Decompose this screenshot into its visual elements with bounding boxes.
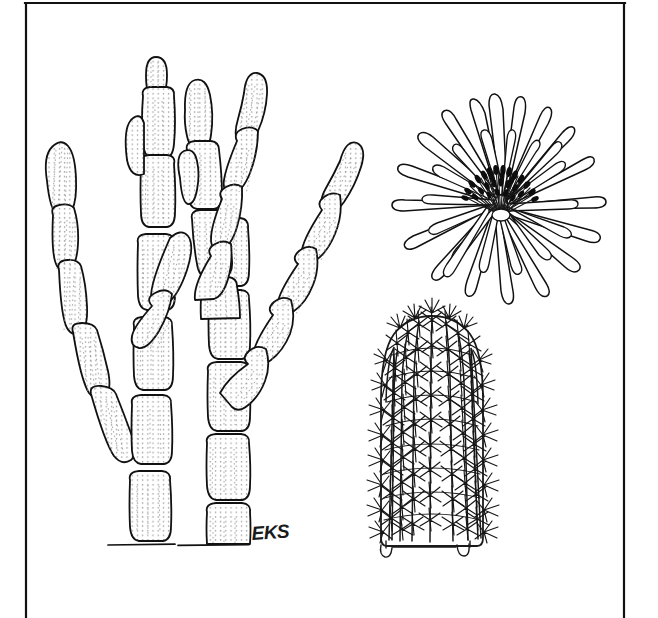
stem-joint-base [130,471,172,541]
illustration-plate: EKS [0,0,658,618]
artist-signature-text: EKS [251,520,291,544]
plate-background [0,0,658,618]
stem-branch-bud-left [126,116,144,175]
stem-joint [142,87,175,158]
stem-joint [126,116,144,175]
flower-receptacle [492,209,510,221]
stem-joint [141,155,176,227]
artist-signature: EKS [251,520,291,544]
botanical-illustration-canvas: EKS [0,0,658,618]
stem-joint-apex [185,80,213,150]
stem-joint [132,395,173,464]
stem-joint [207,434,251,500]
